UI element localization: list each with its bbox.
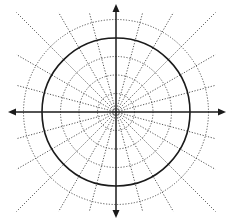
radial-line-315deg bbox=[116, 112, 216, 212]
polar-grid-diagram bbox=[0, 0, 229, 221]
radial-line-345deg bbox=[116, 112, 216, 139]
radial-line-255deg bbox=[89, 112, 116, 212]
arrow-right-icon bbox=[218, 109, 226, 116]
radial-line-105deg bbox=[89, 13, 116, 113]
radial-line-210deg bbox=[17, 112, 117, 169]
radial-line-150deg bbox=[17, 55, 117, 112]
radial-line-30deg bbox=[116, 55, 216, 112]
radial-line-225deg bbox=[17, 112, 117, 212]
radial-line-120deg bbox=[59, 13, 116, 113]
radial-line-165deg bbox=[17, 85, 117, 112]
radial-line-195deg bbox=[17, 112, 117, 139]
arrow-left-icon bbox=[8, 109, 16, 116]
radial-line-135deg bbox=[17, 13, 117, 113]
radial-line-45deg bbox=[116, 13, 216, 113]
radial-line-75deg bbox=[116, 13, 143, 113]
radial-line-240deg bbox=[59, 112, 116, 212]
radial-line-285deg bbox=[116, 112, 143, 212]
radial-line-60deg bbox=[116, 13, 173, 113]
arrow-up-icon bbox=[113, 4, 120, 12]
radial-line-15deg bbox=[116, 85, 216, 112]
arrow-down-icon bbox=[113, 210, 120, 218]
radial-line-330deg bbox=[116, 112, 216, 169]
radial-line-300deg bbox=[116, 112, 173, 212]
